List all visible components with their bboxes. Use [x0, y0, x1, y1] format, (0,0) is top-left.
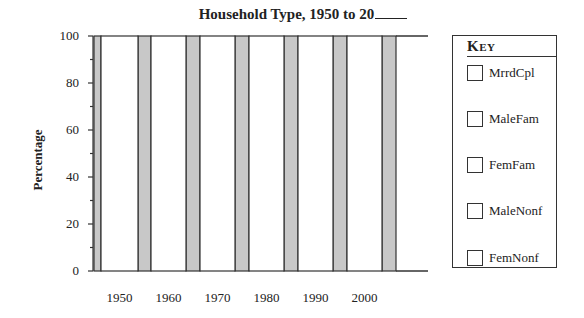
y-tick-label: 100 — [60, 28, 80, 44]
y-tick-label: 80 — [66, 75, 79, 91]
bar-1960 — [151, 36, 186, 271]
legend-label: MaleNonf — [489, 203, 542, 219]
legend-label: MrrdCpl — [489, 65, 535, 81]
bar-1950 — [101, 36, 138, 271]
bar-1990 — [298, 36, 333, 271]
legend-item: MrrdCpl — [467, 63, 535, 83]
legend-item: FemNonf — [467, 248, 539, 268]
x-tick-label: 2000 — [352, 290, 378, 306]
legend-swatch[interactable] — [467, 111, 483, 127]
legend-swatch[interactable] — [467, 250, 483, 266]
x-tick-label: 1990 — [303, 290, 329, 306]
legend-title: Key — [467, 38, 495, 55]
spacer-bar — [382, 36, 396, 271]
x-tick-label: 1970 — [205, 290, 231, 306]
legend-title-rule — [467, 56, 557, 57]
legend-label: FemNonf — [489, 250, 539, 266]
spacer-bar — [284, 36, 298, 271]
spacer-bar — [138, 36, 151, 271]
legend: Key MrrdCplMaleFamFemFamMaleNonfFemNonf — [452, 35, 557, 268]
y-axis — [88, 36, 93, 271]
x-tick-label: 1980 — [254, 290, 280, 306]
y-tick-label: 20 — [66, 216, 79, 232]
legend-item: MaleNonf — [467, 201, 542, 221]
y-tick-label: 40 — [66, 169, 79, 185]
legend-swatch[interactable] — [467, 65, 483, 81]
bar-2000 — [347, 36, 382, 271]
bar-1980 — [249, 36, 284, 271]
legend-label: FemFam — [489, 157, 535, 173]
y-tick-label: 60 — [66, 122, 79, 138]
x-tick-label: 1950 — [107, 290, 133, 306]
spacer-bar — [94, 36, 101, 271]
bar-1970 — [200, 36, 235, 271]
y-tick-label: 0 — [73, 263, 80, 279]
x-tick-label: 1960 — [156, 290, 182, 306]
spacer-bar — [235, 36, 249, 271]
legend-item: FemFam — [467, 155, 535, 175]
legend-swatch[interactable] — [467, 157, 483, 173]
spacer-bar — [333, 36, 347, 271]
legend-label: MaleFam — [489, 111, 539, 127]
spacer-bar — [186, 36, 200, 271]
legend-swatch[interactable] — [467, 203, 483, 219]
legend-item: MaleFam — [467, 109, 539, 129]
